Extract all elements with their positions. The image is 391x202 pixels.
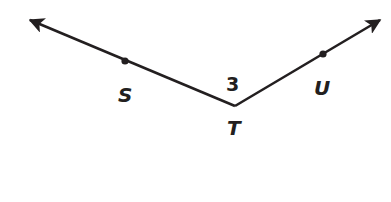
angle-diagram: S U T 3 (0, 0, 391, 202)
ray-ts (30, 20, 235, 106)
point-s-label: S (118, 83, 132, 107)
point-u-dot (319, 50, 326, 57)
point-s-dot (121, 57, 128, 64)
ray-tu (235, 20, 380, 106)
point-u-label: U (314, 76, 330, 100)
angle-number-label: 3 (226, 73, 239, 95)
vertex-t-label: T (227, 116, 242, 140)
